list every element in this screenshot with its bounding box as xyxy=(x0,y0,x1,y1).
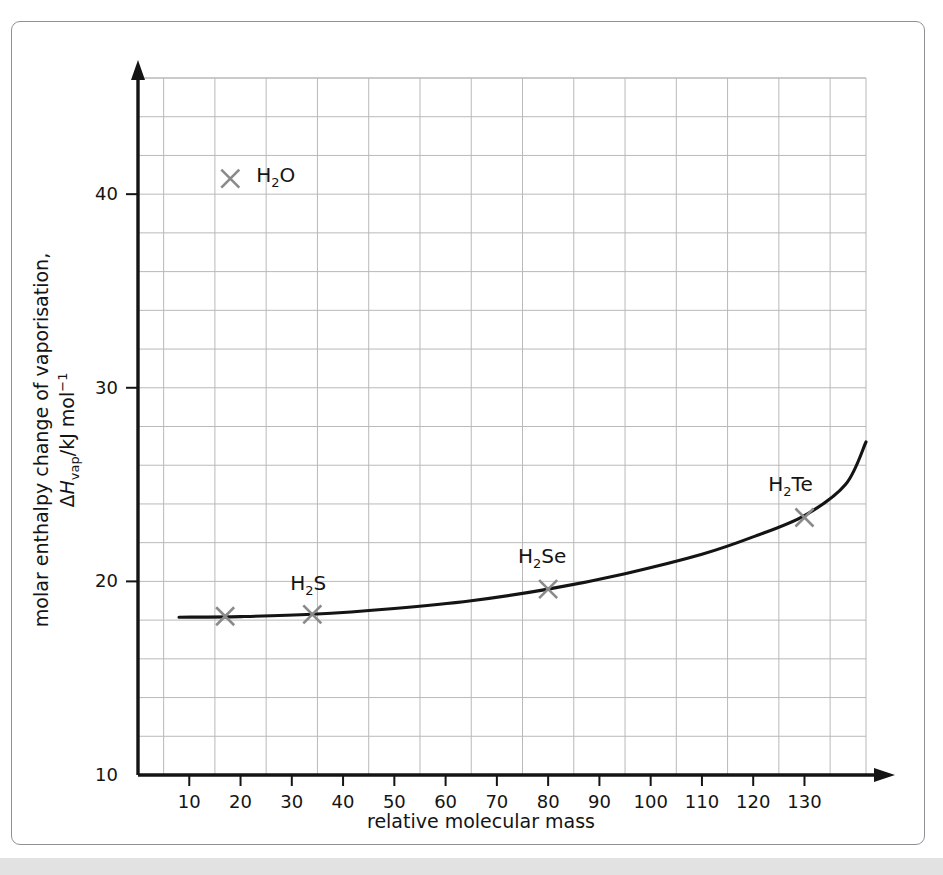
x-axis-tick-label: 30 xyxy=(280,791,303,812)
data-point-label: H2S xyxy=(290,571,326,598)
x-axis-tick-label: 90 xyxy=(588,791,611,812)
x-axis-tick-label: 120 xyxy=(736,791,770,812)
page-bottom-band xyxy=(0,857,943,875)
axes xyxy=(131,60,895,782)
x-axis-tick-label: 20 xyxy=(229,791,252,812)
data-point-labels: H2OH2SH2SeH2Te xyxy=(256,163,812,599)
x-axis-tick-label: 110 xyxy=(685,791,719,812)
y-axis-tick-label: 20 xyxy=(95,570,118,591)
x-axis-tick-label: 50 xyxy=(383,791,406,812)
x-axis-tick-label: 80 xyxy=(537,791,560,812)
y-axis-origin-label: 10 xyxy=(95,764,118,785)
y-axis-title-line2: ΔHvap/kJ mol−1 xyxy=(55,373,82,508)
x-axis-tick-label: 70 xyxy=(485,791,508,812)
x-axis-tick-label: 100 xyxy=(633,791,667,812)
axis-tick-labels: 10203040506070809010011012013020304010 xyxy=(95,183,822,812)
x-axis-tick-label: 40 xyxy=(332,791,355,812)
x-axis-tick-label: 10 xyxy=(178,791,201,812)
y-axis-tick-label: 30 xyxy=(95,377,118,398)
y-axis-tick-label: 40 xyxy=(95,183,118,204)
data-point-label: H2O xyxy=(256,163,295,190)
y-axis-title: molar enthalpy change of vaporisation, Δ… xyxy=(30,253,82,627)
data-point-markers xyxy=(216,170,813,626)
data-point-label: H2Se xyxy=(518,544,566,571)
x-axis-arrowhead xyxy=(874,768,895,782)
x-axis-tick-label: 60 xyxy=(434,791,457,812)
x-axis-title: relative molecular mass xyxy=(367,810,595,832)
y-axis-arrowhead xyxy=(131,60,145,80)
y-axis-title-line1: molar enthalpy change of vaporisation, xyxy=(30,253,52,627)
gridlines xyxy=(138,78,866,775)
data-point-label: H2Te xyxy=(768,472,812,499)
data-point-marker xyxy=(221,170,239,188)
x-axis-tick-label: 130 xyxy=(787,791,821,812)
